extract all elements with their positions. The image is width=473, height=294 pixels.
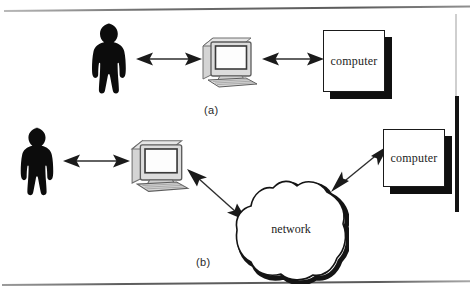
panel-a-arrow-person-workstation bbox=[136, 50, 202, 68]
panel-a-caption: (a) bbox=[204, 104, 218, 116]
panel-b-workstation-icon bbox=[129, 136, 191, 194]
panel-b-arrow-person-workstation bbox=[63, 152, 130, 170]
frame-line-right-upper bbox=[455, 14, 457, 98]
panel-b-computer-box: computer bbox=[383, 129, 445, 187]
panel-a-computer-box: computer bbox=[323, 30, 385, 92]
panel-a-computer-label: computer bbox=[331, 54, 378, 69]
frame-line-right bbox=[455, 96, 459, 212]
panel-b-caption: (b) bbox=[196, 256, 210, 268]
panel-a-person-icon bbox=[85, 22, 137, 94]
panel-b-network-label: network bbox=[233, 222, 349, 237]
panel-a-workstation-icon bbox=[200, 34, 260, 89]
panel-a-arrow-workstation-computer bbox=[262, 50, 324, 68]
panel-b-computer-box-face: computer bbox=[383, 129, 445, 187]
figure-canvas: computer (a) bbox=[0, 0, 473, 294]
panel-b-computer-label: computer bbox=[391, 151, 438, 166]
panel-b-person-icon bbox=[14, 126, 64, 196]
panel-a-computer-box-face: computer bbox=[323, 30, 385, 92]
panel-b-arrow-network-computer bbox=[330, 143, 390, 195]
frame-line-top bbox=[4, 6, 470, 12]
